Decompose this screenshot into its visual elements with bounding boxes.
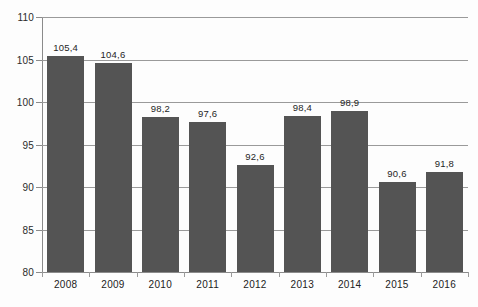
x-axis-tick-5	[279, 272, 280, 277]
bar-2012	[237, 165, 274, 272]
x-axis-label-2010: 2010	[149, 279, 172, 290]
bar-2013	[284, 116, 321, 272]
x-axis-tick-4	[231, 272, 232, 277]
x-axis-line	[42, 272, 469, 273]
bar-2008	[47, 56, 84, 272]
value-label-2008: 105,4	[53, 42, 78, 53]
value-label-2015: 90,6	[387, 168, 406, 179]
x-axis-label-2014: 2014	[338, 279, 361, 290]
value-label-2009: 104,6	[101, 49, 126, 60]
x-axis-tick-1	[89, 272, 90, 277]
x-axis-tick-0	[42, 272, 43, 277]
x-axis-label-2015: 2015	[385, 279, 408, 290]
x-axis-tick-9	[468, 272, 469, 277]
y-axis-label-85: 85	[6, 224, 34, 235]
value-label-2014: 98,9	[340, 97, 359, 108]
y-axis-label-95: 95	[6, 139, 34, 150]
bar-2011	[189, 122, 226, 272]
x-axis-label-2012: 2012	[243, 279, 266, 290]
x-axis-tick-3	[184, 272, 185, 277]
x-axis-tick-2	[137, 272, 138, 277]
y-axis-label-110: 110	[6, 12, 34, 23]
bar-2014	[331, 111, 368, 272]
x-axis-label-2011: 2011	[196, 279, 219, 290]
gridline-110	[42, 17, 468, 18]
y-axis-label-105: 105	[6, 54, 34, 65]
y-axis-label-90: 90	[6, 182, 34, 193]
x-axis-tick-7	[373, 272, 374, 277]
bar-2009	[95, 63, 132, 272]
y-axis-label-80: 80	[6, 267, 34, 278]
value-label-2013: 98,4	[293, 102, 312, 113]
value-label-2010: 98,2	[151, 103, 170, 114]
bar-2016	[426, 172, 463, 272]
bar-2010	[142, 117, 179, 272]
x-axis-label-2009: 2009	[101, 279, 124, 290]
x-axis-label-2013: 2013	[291, 279, 314, 290]
value-label-2011: 97,6	[198, 108, 217, 119]
bar-2015	[379, 182, 416, 272]
x-axis-label-2008: 2008	[54, 279, 77, 290]
x-axis-label-2016: 2016	[433, 279, 456, 290]
x-axis-tick-8	[421, 272, 422, 277]
y-axis-label-100: 100	[6, 97, 34, 108]
value-label-2012: 92,6	[245, 151, 264, 162]
value-label-2016: 91,8	[435, 158, 454, 169]
x-axis-tick-6	[326, 272, 327, 277]
bar-chart: 80859095100105110 105,4104,698,297,692,6…	[0, 0, 478, 307]
